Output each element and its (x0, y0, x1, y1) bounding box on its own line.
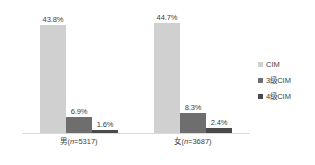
bar-wrap-female-cim: 44.7% (154, 10, 180, 134)
bar-groups: 43.8% 6.9% 1.6% 44.7% (22, 10, 250, 134)
bar-value-label: 1.6% (97, 120, 114, 129)
legend-swatch-icon (258, 94, 263, 99)
legend-item-cim4[interactable]: 4级CIM (258, 88, 313, 104)
x-axis-label-female-count: =3687) (188, 137, 212, 146)
bar-value-label: 8.3% (185, 103, 202, 112)
x-axis-label-male-prefix: 男( (60, 137, 70, 146)
bar-value-label: 2.4% (211, 118, 228, 127)
legend-swatch-icon (258, 62, 263, 67)
bar-wrap-male-cim: 43.8% (40, 10, 66, 134)
bar-female-cim (154, 23, 180, 134)
bar-wrap-female-cim3: 8.3% (180, 10, 206, 134)
bar-group-female: 44.7% 8.3% 2.4% (154, 10, 232, 134)
bar-wrap-female-cim4: 2.4% (206, 10, 232, 134)
plot-area: 43.8% 6.9% 1.6% 44.7% (22, 10, 250, 134)
x-axis-label-male: 男(n=5317) (60, 137, 97, 147)
bar-wrap-male-cim3: 6.9% (66, 10, 92, 134)
bar-male-cim3 (66, 117, 92, 134)
axis-baseline (22, 133, 250, 134)
x-axis-label-male-count: =5317) (74, 137, 98, 146)
bar-value-label: 44.7% (157, 13, 178, 22)
x-axis-labels: 男(n=5317) 女(n=3687) (22, 137, 250, 153)
legend-label: 4级CIM (266, 92, 291, 101)
legend-swatch-icon (258, 78, 263, 83)
bar-male-cim (40, 25, 66, 134)
legend-item-cim3[interactable]: 3级CIM (258, 72, 313, 88)
legend-label: CIM (266, 60, 280, 69)
x-axis-label-female: 女(n=3687) (174, 137, 211, 147)
bar-female-cim3 (180, 113, 206, 134)
bar-chart: 43.8% 6.9% 1.6% 44.7% (0, 0, 315, 165)
legend: CIM 3级CIM 4级CIM (258, 56, 313, 104)
legend-item-cim[interactable]: CIM (258, 56, 313, 72)
bar-value-label: 43.8% (43, 15, 64, 24)
x-axis-label-female-prefix: 女( (174, 137, 184, 146)
bar-value-label: 6.9% (71, 107, 88, 116)
legend-label: 3级CIM (266, 76, 291, 85)
bar-wrap-male-cim4: 1.6% (92, 10, 118, 134)
bar-group-male: 43.8% 6.9% 1.6% (40, 10, 118, 134)
